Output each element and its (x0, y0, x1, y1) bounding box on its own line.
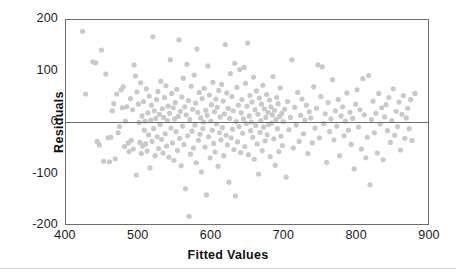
scatter-point (194, 160, 199, 165)
scatter-point (278, 134, 283, 139)
scatter-point (217, 130, 222, 135)
scatter-point (356, 125, 361, 130)
scatter-point (166, 155, 171, 160)
scatter-point (392, 133, 397, 138)
scatter-point (181, 142, 186, 147)
scatter-point (291, 145, 296, 150)
scatter-point (305, 151, 310, 156)
scatter-point (173, 129, 178, 134)
scatter-point (359, 146, 364, 151)
scatter-point (330, 77, 335, 82)
scatter-point (298, 113, 303, 118)
scatter-point (228, 71, 233, 76)
scatter-point (239, 97, 244, 102)
scatter-point (224, 90, 229, 95)
scatter-point (226, 180, 231, 185)
scatter-point (328, 116, 333, 121)
scatter-point (270, 74, 275, 79)
scatter-point (318, 94, 323, 99)
scatter-point (221, 153, 226, 158)
scatter-point (386, 95, 391, 100)
scatter-point (247, 113, 252, 118)
scatter-point (255, 112, 260, 117)
scatter-point (223, 42, 228, 47)
x-axis-tick-label: 900 (399, 228, 456, 242)
scatter-point (301, 131, 306, 136)
scatter-point (247, 93, 252, 98)
scatter-point (259, 102, 264, 107)
scatter-point (341, 133, 346, 138)
scatter-point (176, 37, 181, 42)
scatter-point (271, 136, 276, 141)
scatter-point (362, 112, 367, 117)
scatter-point (257, 95, 262, 100)
scatter-point (243, 81, 248, 86)
scatter-point (295, 90, 300, 95)
scatter-point (183, 186, 188, 191)
scatter-point (202, 144, 207, 149)
scatter-point (354, 87, 359, 92)
scatter-point (252, 157, 257, 162)
scatter-point (317, 135, 322, 140)
scatter-point (197, 90, 202, 95)
scatter-point (250, 135, 255, 140)
scatter-point (373, 111, 378, 116)
scatter-point (246, 152, 251, 157)
scatter-point (275, 126, 280, 131)
scatter-point (376, 91, 381, 96)
scatter-point (257, 130, 262, 135)
scatter-point (273, 163, 278, 168)
scatter-point (304, 103, 309, 108)
scatter-point (199, 169, 204, 174)
scatter-point (282, 107, 287, 112)
scatter-point (352, 166, 357, 171)
scatter-point (236, 124, 241, 129)
scatter-point (231, 147, 236, 152)
scatter-point (297, 139, 302, 144)
scatter-point (404, 115, 409, 120)
scatter-point (169, 91, 174, 96)
scatter-point (251, 75, 256, 80)
scatter-point (248, 128, 253, 133)
scatter-point (350, 116, 355, 121)
scatter-point (327, 129, 332, 134)
scatter-point (205, 63, 210, 68)
scatter-point (349, 142, 354, 147)
scatter-point (193, 101, 198, 106)
scatter-point (228, 135, 233, 140)
scatter-point (223, 133, 228, 138)
y-axis-title: Residuals (52, 91, 66, 153)
scatter-point (398, 147, 403, 152)
scatter-point (276, 149, 281, 154)
scatter-point (231, 108, 236, 113)
x-axis-tick-label: 400 (35, 228, 95, 242)
scatter-point (396, 100, 401, 105)
scatter-point (170, 140, 175, 145)
scatter-point (276, 101, 281, 106)
scatter-point (212, 109, 217, 114)
scatter-point (188, 152, 193, 157)
scatter-point (238, 150, 243, 155)
scatter-point (256, 171, 261, 176)
scatter-point (163, 131, 168, 136)
scatter-point (229, 94, 234, 99)
scatter-point (242, 144, 247, 149)
scatter-point (357, 107, 362, 112)
scatter-point (245, 40, 250, 45)
scatter-point (195, 110, 200, 115)
scatter-point (192, 73, 197, 78)
scatter-point (294, 122, 299, 127)
scatter-point (312, 126, 317, 131)
scatter-point (372, 130, 377, 135)
scatter-point (326, 100, 331, 105)
scatter-point (235, 139, 240, 144)
scatter-point (311, 84, 316, 89)
scatter-point (265, 110, 270, 115)
scatter-point (381, 157, 386, 162)
scatter-point (163, 83, 168, 88)
scatter-point (227, 116, 232, 121)
scatter-point (178, 109, 183, 114)
scatter-point (189, 129, 194, 134)
x-axis-tick-label: 600 (181, 228, 241, 242)
scatter-point (366, 73, 371, 78)
